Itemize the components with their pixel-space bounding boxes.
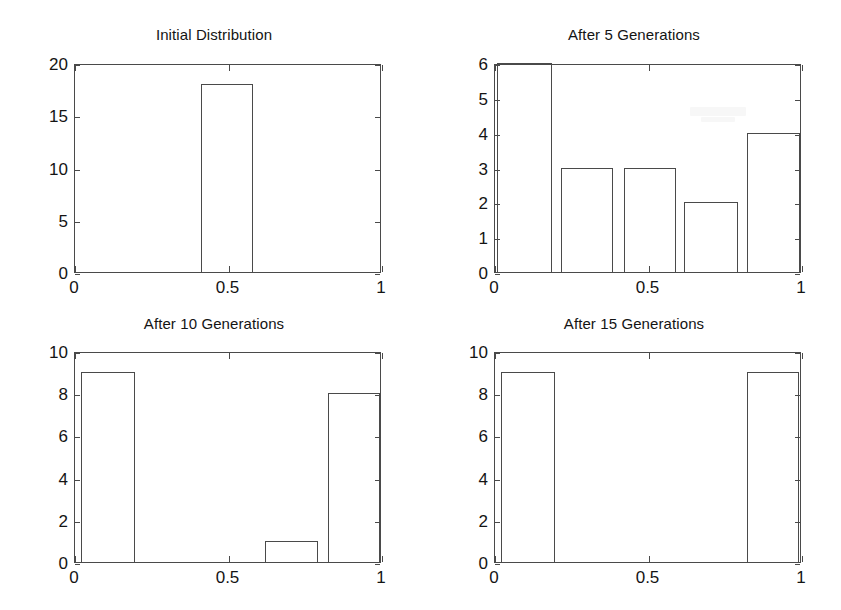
x-tick-mark-top <box>802 353 803 359</box>
y-tick-mark-right <box>795 274 800 275</box>
y-tick-mark <box>495 522 500 523</box>
y-tick-mark-right <box>375 222 380 223</box>
x-tick-label: 1 <box>376 569 385 586</box>
x-tick-label-group: 00.51 <box>74 279 381 303</box>
x-tick-mark-top <box>495 65 496 71</box>
y-tick-label-group: 0246810 <box>454 352 488 563</box>
x-tick-mark <box>75 556 76 562</box>
y-tick-mark-right <box>795 170 800 171</box>
plot-area <box>494 352 801 563</box>
x-tick-label: 0.5 <box>636 569 660 586</box>
y-tick-mark-right <box>375 117 380 118</box>
x-tick-label-group: 00.51 <box>74 569 381 593</box>
y-tick-label: 6 <box>479 56 488 73</box>
x-tick-mark-top <box>495 353 496 359</box>
y-tick-mark-right <box>795 135 800 136</box>
y-tick-mark <box>75 222 80 223</box>
plot-area <box>74 64 381 273</box>
histogram-bar <box>684 202 738 272</box>
y-tick-label: 15 <box>49 108 68 125</box>
y-tick-mark-right <box>795 353 800 354</box>
y-tick-mark-right <box>375 480 380 481</box>
x-tick-mark-top <box>649 353 650 359</box>
x-tick-mark <box>229 266 230 272</box>
y-tick-mark <box>495 437 500 438</box>
y-tick-mark <box>75 480 80 481</box>
y-tick-mark-right <box>375 522 380 523</box>
x-tick-mark <box>382 556 383 562</box>
x-tick-label: 0 <box>489 279 498 296</box>
y-tick-mark <box>75 437 80 438</box>
y-tick-mark-right <box>375 395 380 396</box>
y-tick-label: 2 <box>59 512 68 529</box>
x-tick-label-group: 00.51 <box>494 569 801 593</box>
y-tick-label: 0 <box>479 265 488 282</box>
x-tick-label: 1 <box>376 279 385 296</box>
y-tick-mark-right <box>795 395 800 396</box>
y-tick-label: 4 <box>479 125 488 142</box>
panel-title: After 5 Generations <box>454 26 814 43</box>
x-tick-mark <box>649 556 650 562</box>
y-tick-mark-right <box>795 522 800 523</box>
y-tick-mark <box>495 274 500 275</box>
x-tick-mark-top <box>75 65 76 71</box>
y-tick-mark <box>75 170 80 171</box>
histogram-bar <box>497 63 552 272</box>
y-tick-label: 5 <box>59 212 68 229</box>
subplot-after-10-generations: After 10 Generations 0246810 00.51 <box>40 315 400 593</box>
y-tick-label: 10 <box>469 344 488 361</box>
x-tick-label: 1 <box>796 279 805 296</box>
x-tick-mark-top <box>229 65 230 71</box>
x-tick-mark-top <box>75 353 76 359</box>
y-tick-mark <box>495 170 500 171</box>
panel-title: After 15 Generations <box>454 315 814 332</box>
y-tick-label: 2 <box>479 512 488 529</box>
y-tick-mark <box>495 395 500 396</box>
y-tick-mark <box>75 564 80 565</box>
y-tick-label: 8 <box>59 386 68 403</box>
y-tick-label: 6 <box>59 428 68 445</box>
subplot-after-15-generations: After 15 Generations 0246810 00.51 <box>460 315 820 593</box>
y-tick-label: 0 <box>59 555 68 572</box>
y-tick-mark-right <box>795 65 800 66</box>
y-tick-mark-right <box>375 437 380 438</box>
y-tick-mark-right <box>375 353 380 354</box>
x-tick-mark-top <box>229 353 230 359</box>
y-tick-mark-right <box>795 100 800 101</box>
y-tick-mark <box>495 564 500 565</box>
y-tick-mark <box>75 117 80 118</box>
y-tick-label: 5 <box>479 90 488 107</box>
x-tick-mark <box>75 266 76 272</box>
y-tick-mark <box>495 135 500 136</box>
y-tick-mark <box>495 204 500 205</box>
y-tick-label: 0 <box>59 265 68 282</box>
histogram-bar <box>747 133 801 272</box>
x-tick-label: 0.5 <box>216 569 240 586</box>
histogram-bar <box>624 168 676 273</box>
histogram-bar <box>201 84 253 272</box>
y-tick-mark-right <box>375 170 380 171</box>
x-tick-mark-top <box>382 65 383 71</box>
x-tick-label: 0 <box>69 569 78 586</box>
histogram-bar <box>501 372 555 562</box>
y-tick-label-group: 05101520 <box>34 64 68 273</box>
y-tick-mark-right <box>795 480 800 481</box>
y-tick-label: 6 <box>479 428 488 445</box>
x-tick-label: 0.5 <box>636 279 660 296</box>
y-tick-mark-right <box>795 437 800 438</box>
y-tick-mark <box>75 395 80 396</box>
panel-title: After 10 Generations <box>34 315 394 332</box>
x-tick-mark-top <box>649 65 650 71</box>
x-tick-label: 0 <box>69 279 78 296</box>
y-tick-mark-right <box>375 564 380 565</box>
y-tick-label-group: 0123456 <box>454 64 488 273</box>
y-tick-mark-right <box>795 564 800 565</box>
y-tick-mark-right <box>375 274 380 275</box>
histogram-bar <box>328 393 380 562</box>
y-tick-label: 3 <box>479 160 488 177</box>
y-tick-label: 4 <box>479 470 488 487</box>
x-tick-mark <box>802 556 803 562</box>
x-tick-label: 0 <box>489 569 498 586</box>
histogram-bar <box>81 372 135 562</box>
x-tick-mark <box>649 266 650 272</box>
